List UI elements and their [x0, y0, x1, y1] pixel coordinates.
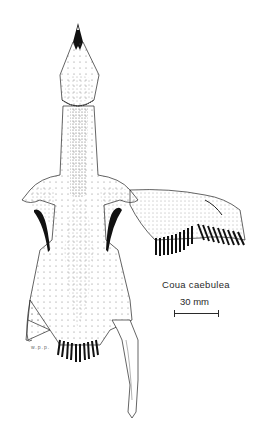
neck-and-body — [22, 106, 138, 345]
right-wing — [130, 190, 245, 256]
scale-label: 30 mm — [180, 296, 209, 307]
bird-pterylosis-illustration — [0, 0, 265, 435]
species-label: Coua caebulea — [162, 279, 230, 290]
artist-signature: w.p.p. — [31, 344, 50, 350]
scale-bar — [174, 313, 219, 314]
head — [60, 42, 99, 106]
